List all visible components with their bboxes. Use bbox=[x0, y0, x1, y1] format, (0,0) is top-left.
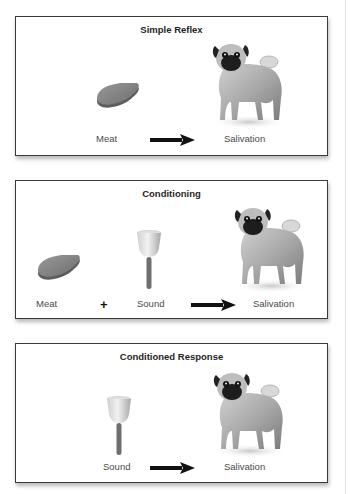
arrow-right-icon bbox=[150, 462, 196, 474]
panel-title: Simple Reflex bbox=[16, 24, 327, 35]
stimulus-label: Meat bbox=[96, 133, 117, 144]
meat-icon bbox=[36, 255, 82, 281]
panel-title: Conditioning bbox=[16, 188, 327, 199]
bell-icon bbox=[106, 396, 132, 456]
panel-simple-reflex: Simple Reflex Meat Salivation bbox=[15, 16, 328, 156]
stimulus-label: Sound bbox=[103, 461, 130, 472]
dog-icon bbox=[210, 369, 290, 459]
response-label: Salivation bbox=[224, 461, 265, 472]
panel-title: Conditioned Response bbox=[16, 351, 327, 362]
stimulus-label-meat: Meat bbox=[36, 298, 57, 309]
meat-icon bbox=[95, 83, 141, 109]
panel-conditioned-response: Conditioned Response Sound Salivation bbox=[15, 343, 328, 483]
dog-icon bbox=[231, 204, 311, 294]
dog-icon bbox=[209, 40, 289, 130]
response-label: Salivation bbox=[224, 133, 265, 144]
arrow-right-icon bbox=[191, 299, 237, 311]
bell-icon bbox=[136, 230, 162, 290]
plus-icon: + bbox=[100, 300, 108, 310]
page-edge-divider bbox=[345, 0, 346, 494]
panel-conditioning: Conditioning Meat + Sound Salivation bbox=[15, 180, 328, 319]
arrow-right-icon bbox=[150, 134, 196, 146]
stimulus-label-sound: Sound bbox=[137, 298, 164, 309]
response-label: Salivation bbox=[253, 298, 294, 309]
